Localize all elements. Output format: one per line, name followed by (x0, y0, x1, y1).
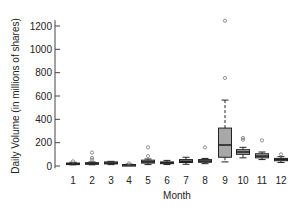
y-tick-label: 200 (35, 137, 52, 148)
x-tick-label: 5 (145, 175, 151, 186)
x-axis-title: Month (163, 190, 191, 201)
x-tick-label: 3 (108, 175, 114, 186)
x-tick-label: 11 (257, 175, 268, 186)
outlier-point (146, 154, 149, 157)
box-month-4 (123, 162, 136, 166)
box-month-11 (256, 139, 269, 160)
y-axis-title: Daily Volume (in millions of shares) (10, 18, 21, 174)
box-plot-chart: 020040060080010001200 123456789101112 Da… (0, 0, 303, 208)
outlier-point (223, 76, 226, 79)
plot-area (67, 19, 288, 166)
y-tick-label: 1000 (30, 44, 53, 55)
box-month-12 (275, 153, 288, 163)
box-month-2 (86, 151, 99, 165)
y-tick-label: 600 (35, 91, 52, 102)
y-tick-label: 0 (46, 161, 52, 172)
x-tick-label: 1 (70, 175, 76, 186)
x-tick-label: 7 (183, 175, 189, 186)
outlier-point (90, 151, 93, 154)
box-month-1 (67, 160, 80, 165)
y-axis: 020040060080010001200 (30, 20, 60, 171)
x-tick-label: 8 (202, 175, 208, 186)
box-month-3 (105, 161, 118, 164)
box-month-8 (199, 146, 212, 164)
x-tick-label: 6 (164, 175, 170, 186)
outlier-point (146, 146, 149, 149)
outlier-point (203, 146, 206, 149)
y-tick-label: 800 (35, 67, 52, 78)
outlier-point (223, 19, 226, 22)
x-tick-label: 4 (126, 175, 132, 186)
outlier-point (260, 139, 263, 142)
box-month-5 (142, 146, 155, 165)
x-axis: 123456789101112 (70, 175, 287, 186)
y-tick-label: 1200 (30, 21, 53, 32)
box-month-9 (219, 19, 232, 162)
outlier-point (279, 153, 282, 156)
x-tick-label: 12 (275, 175, 287, 186)
box-month-10 (237, 136, 250, 157)
y-tick-label: 400 (35, 114, 52, 125)
box-month-6 (161, 160, 174, 164)
x-tick-label: 2 (89, 175, 95, 186)
box-month-7 (180, 157, 193, 164)
x-tick-label: 10 (237, 175, 249, 186)
x-tick-label: 9 (222, 175, 228, 186)
